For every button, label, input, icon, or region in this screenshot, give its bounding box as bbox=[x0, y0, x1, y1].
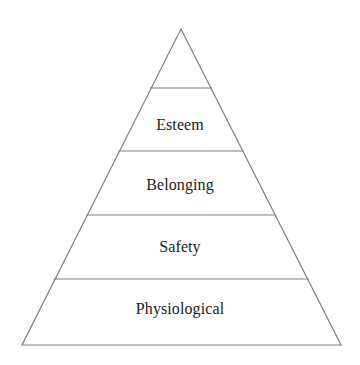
tier-label-belonging: Belonging bbox=[0, 176, 360, 194]
tier-label-safety: Safety bbox=[0, 238, 360, 256]
tier-label-esteem: Esteem bbox=[0, 116, 360, 134]
tier-label-physiological: Physiological bbox=[0, 300, 360, 318]
pyramid-figure: Esteem Belonging Safety Physiological bbox=[0, 0, 360, 365]
